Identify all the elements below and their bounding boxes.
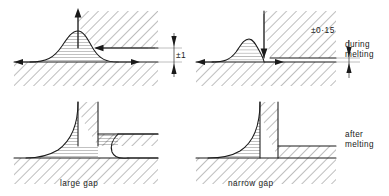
panel-top-right: ±0·15	[196, 11, 360, 86]
welding-gap-diagram: ±1	[0, 0, 389, 196]
panel-bottom-right: narrow gap	[196, 102, 336, 188]
panel-top-left: ±1	[14, 8, 186, 86]
row-label-during-melting: during melting	[345, 40, 374, 59]
row-label-after-melting-line1: after	[345, 130, 363, 139]
dimension-label-left: ±1	[176, 50, 186, 60]
filler-between-plates-bottom-right	[260, 102, 278, 158]
caption-large-gap: large gap	[60, 179, 98, 188]
row-label-after-melting-line2: melting	[345, 140, 374, 149]
base-plate-top-left	[14, 62, 158, 86]
row-label-after-melting: after melting	[345, 130, 374, 149]
base-plate-top-right	[196, 62, 336, 86]
fillet-bottom-right	[208, 102, 260, 158]
row-label-during-melting-line2: melting	[345, 50, 374, 59]
row-label-during-melting-line1: during	[345, 40, 370, 49]
caption-narrow-gap: narrow gap	[228, 179, 273, 188]
panel-bottom-left: large gap	[14, 102, 158, 188]
molten-bead-top-right	[212, 39, 264, 62]
fillet-under-flange-bottom-left	[78, 134, 118, 158]
dimension-label-right: ±0·15	[311, 25, 335, 35]
fillet-bottom-left	[26, 102, 78, 158]
